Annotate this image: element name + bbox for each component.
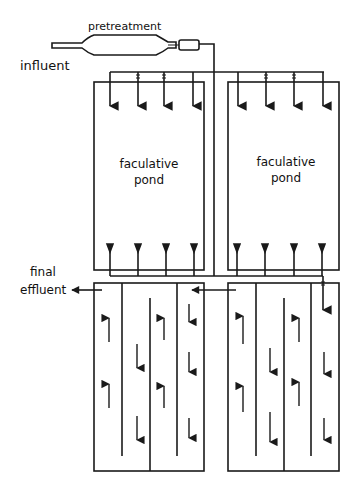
facultative-pond-left-label-2: pond xyxy=(134,173,164,187)
pond-system-diagram: pretreatment influent faculative pond fa… xyxy=(0,0,359,487)
maturation-pond-right xyxy=(228,283,339,471)
pretreatment-unit xyxy=(52,35,199,55)
inlet-arrows-right xyxy=(238,72,323,106)
feed-pipe xyxy=(199,44,214,276)
valve-marks xyxy=(136,75,296,78)
final-effluent-label-2: effluent xyxy=(20,283,67,297)
pretreatment-label: pretreatment xyxy=(88,20,162,33)
maturation-pond-left xyxy=(94,283,204,471)
final-effluent-label-1: final xyxy=(30,265,56,279)
outlet-pipes-left xyxy=(107,244,197,276)
facultative-pond-left-label-1: faculative xyxy=(120,157,179,171)
facultative-pond-right-label-1: faculative xyxy=(257,155,316,169)
inlet-arrows-left xyxy=(110,72,193,106)
facultative-pond-right-label-2: pond xyxy=(271,171,301,185)
outlet-pipes-right xyxy=(234,244,325,276)
influent-label: influent xyxy=(20,58,70,73)
